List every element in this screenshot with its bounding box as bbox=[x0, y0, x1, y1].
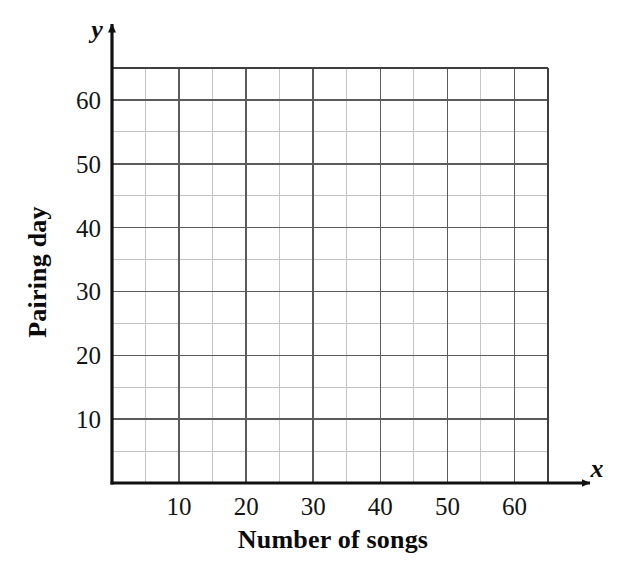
y-axis-tick-label: 60 bbox=[76, 87, 101, 112]
x-axis-tick-label: 50 bbox=[435, 494, 460, 519]
graph-figure: 102030405060 102030405060 x y Number of … bbox=[0, 0, 623, 583]
x-axis-tick-label: 30 bbox=[301, 494, 326, 519]
y-axis-tick-label: 50 bbox=[76, 151, 101, 176]
x-axis-tick-label: 60 bbox=[502, 494, 527, 519]
y-axis-title: Pairing day bbox=[25, 206, 51, 338]
y-axis-tick-label: 30 bbox=[76, 279, 101, 304]
y-axis-tick-label: 20 bbox=[76, 343, 101, 368]
x-axis-symbol-label: x bbox=[591, 456, 604, 482]
x-axis-tick-label: 20 bbox=[234, 494, 259, 519]
y-axis-tick-label: 10 bbox=[76, 407, 101, 432]
x-axis-title: Number of songs bbox=[238, 527, 428, 553]
y-axis-symbol-label: y bbox=[91, 17, 103, 43]
y-axis-tick-label: 40 bbox=[76, 215, 101, 240]
x-axis-tick-label: 40 bbox=[368, 494, 393, 519]
x-axis-tick-label: 10 bbox=[167, 494, 192, 519]
